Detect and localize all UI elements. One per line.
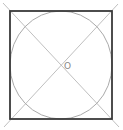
center-label-o: O: [64, 61, 71, 71]
geometry-diagram: O: [0, 0, 123, 130]
